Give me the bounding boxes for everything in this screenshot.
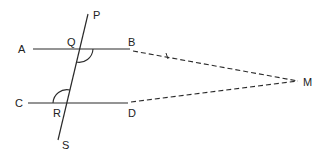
label-q: Q [67, 36, 76, 48]
label-b: B [128, 36, 135, 48]
label-d: D [128, 107, 136, 119]
label-s: S [62, 139, 69, 151]
label-a: A [18, 43, 26, 55]
tick-mark-bm [166, 53, 168, 59]
label-m: M [303, 76, 312, 88]
label-r: R [53, 107, 61, 119]
transversal-ps [58, 14, 88, 140]
dashed-line-dm [131, 81, 298, 102]
geometry-diagram: A B C D P Q R S M [0, 0, 326, 152]
dashed-line-bm [133, 51, 298, 81]
diagram-svg: A B C D P Q R S M [0, 0, 326, 152]
label-p: P [93, 9, 100, 21]
label-c: C [15, 97, 23, 109]
